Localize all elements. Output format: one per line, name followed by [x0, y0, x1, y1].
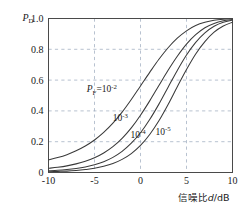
- curve-label-base: 10: [131, 130, 141, 140]
- curve-label-base: 10: [155, 127, 165, 137]
- y-axis-symbol: P: [22, 12, 29, 23]
- y-tick-label: 0: [39, 167, 44, 178]
- x-axis-title-cjk: 信噪比: [178, 192, 208, 203]
- curve-label-exponent: -2: [111, 83, 117, 90]
- chart-figure: -10-5051000.20.40.60.81.0PD信噪比d/dBPF=10-…: [0, 0, 250, 212]
- detection-probability-chart: -10-5051000.20.40.60.81.0PD信噪比d/dBPF=10-…: [0, 0, 250, 212]
- x-tick-label: -5: [90, 175, 98, 186]
- curve-label-series-2: 10-3: [113, 112, 129, 123]
- x-tick-label: 5: [184, 175, 189, 186]
- y-axis-subscript: D: [29, 17, 34, 24]
- y-tick-label: 0.2: [31, 136, 44, 147]
- x-axis-title-unit: /dB: [214, 192, 230, 203]
- x-tick-label: -10: [42, 175, 55, 186]
- curve-label-series-1: PF=10-2: [86, 83, 118, 96]
- curve-label-exponent: -5: [165, 125, 171, 132]
- curve-label-series-4: 10-5: [155, 125, 171, 136]
- curve-label-exponent: -4: [140, 128, 146, 135]
- x-tick-labels: -10-50510: [42, 175, 238, 186]
- x-tick-label: 0: [138, 175, 143, 186]
- y-tick-label: 0.6: [31, 75, 44, 86]
- curve-label-series-3: 10-4: [131, 128, 147, 139]
- y-tick-label: 0.8: [31, 44, 44, 55]
- curve-label-base: 10: [113, 113, 123, 123]
- x-axis-title: 信噪比d/dB: [178, 192, 230, 203]
- curve-label-exponent: -3: [122, 112, 128, 119]
- x-tick-label: 10: [228, 175, 238, 186]
- curve-label-equals: =10: [96, 84, 111, 94]
- y-tick-labels: 00.20.40.60.81.0: [31, 13, 44, 178]
- y-tick-label: 0.4: [31, 105, 44, 116]
